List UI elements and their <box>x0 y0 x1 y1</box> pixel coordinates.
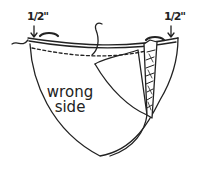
stitch-knot-left <box>40 33 58 36</box>
right-measure-label: 1/2" <box>164 11 185 22</box>
thread-loop <box>92 23 102 55</box>
stitch-knot-right <box>146 37 164 40</box>
fabric-side-line2: side <box>40 100 100 115</box>
arrow-left-icon <box>31 26 37 37</box>
sewing-diagram: 1/2" 1/2" wrong side <box>0 0 199 171</box>
left-measure-label: 1/2" <box>27 11 48 22</box>
fabric-side-label: wrong side <box>40 85 100 115</box>
thread-tail-left <box>12 40 28 44</box>
folded-flap <box>95 50 147 115</box>
arrow-right-icon <box>168 26 174 37</box>
